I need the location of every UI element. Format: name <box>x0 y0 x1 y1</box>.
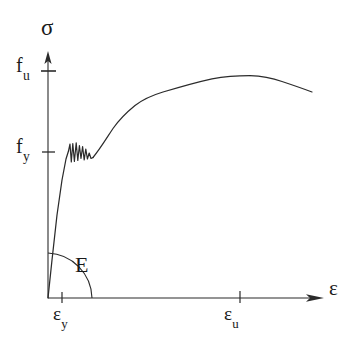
strain-axis-symbol: ε <box>329 278 338 299</box>
yield-strain-label-base: ε <box>53 303 61 324</box>
ultimate-strain-label-base: ε <box>224 303 232 324</box>
ultimate-strength-label: fu <box>16 55 29 80</box>
ultimate-strength-label-subscript: u <box>23 68 30 83</box>
ultimate-strain-label: εu <box>224 304 238 328</box>
necking-decline-segment <box>250 76 312 92</box>
elastic-line-segment <box>48 151 69 298</box>
yield-plateau-serrations <box>69 143 94 162</box>
ultimate-strain-label-subscript: u <box>232 316 238 331</box>
yield-strength-label-subscript: y <box>23 149 30 164</box>
yield-strain-label: εy <box>53 304 67 328</box>
strain-hardening-segment <box>93 76 250 158</box>
ultimate-strength-label-base: f <box>16 54 23 76</box>
stress-strain-figure: σ ε fu fy εy εu E <box>0 0 352 347</box>
yield-strength-label-base: f <box>16 135 23 157</box>
stress-strain-chart <box>0 0 352 347</box>
yield-strength-label: fy <box>16 136 29 161</box>
stress-axis-symbol: σ <box>41 16 53 39</box>
modulus-annotation-label: E <box>75 254 88 276</box>
yield-strain-label-subscript: y <box>61 316 67 331</box>
